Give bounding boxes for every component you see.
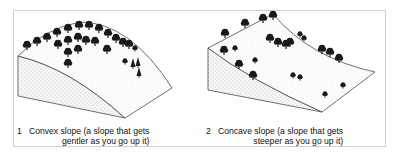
concave-slope-block bbox=[208, 11, 375, 112]
panel-number: 1 bbox=[17, 126, 29, 136]
convex-slope-block bbox=[18, 21, 172, 118]
caption-line-2: gentler as you go up it) bbox=[17, 136, 149, 146]
panel-number: 2 bbox=[206, 126, 218, 136]
caption-line-1: Concave slope (a slope that gets bbox=[218, 126, 343, 136]
caption-line-1: Convex slope (a slope that gets bbox=[29, 126, 149, 136]
caption-convex-slope: 1Convex slope (a slope that gets gentler… bbox=[17, 126, 149, 146]
caption-line-2: steeper as you go up it) bbox=[206, 136, 343, 146]
caption-concave-slope: 2Concave slope (a slope that gets steepe… bbox=[206, 126, 343, 146]
